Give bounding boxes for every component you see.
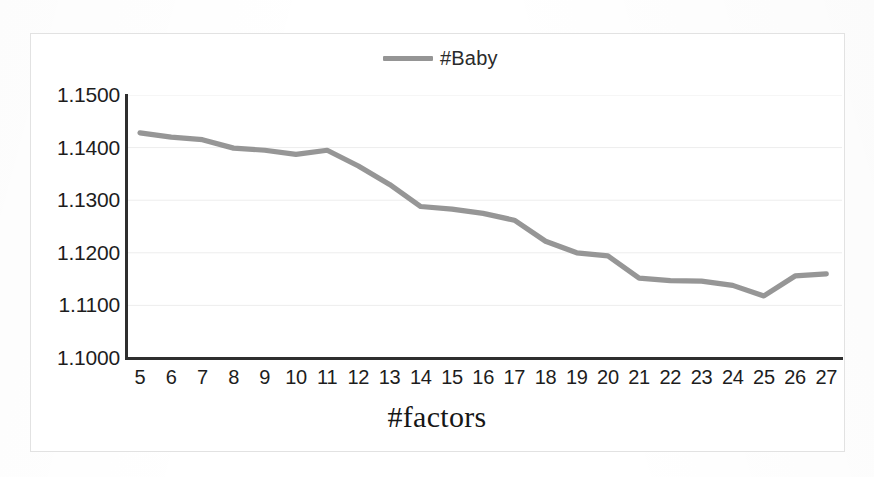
plot-svg xyxy=(127,95,842,358)
data-line-baby xyxy=(140,133,826,296)
x-axis-title: #factors xyxy=(0,400,874,434)
legend-line-swatch-baby xyxy=(383,56,433,61)
y-tick-label: 1.1100 xyxy=(30,293,120,317)
plot-area xyxy=(127,95,842,358)
data-series-group xyxy=(140,133,826,296)
x-tick-label: 27 xyxy=(808,366,844,389)
y-tick-label: 1.1500 xyxy=(30,83,120,107)
chart-legend: #Baby xyxy=(383,44,498,72)
x-axis-line xyxy=(125,357,843,360)
y-axis-line xyxy=(125,94,128,360)
y-tick-label: 1.1300 xyxy=(30,188,120,212)
y-tick-label: 1.1000 xyxy=(30,346,120,370)
y-tick-label: 1.1200 xyxy=(30,241,120,265)
gridlines xyxy=(127,95,842,358)
chart-figure: #Baby 1.15001.14001.13001.12001.11001.10… xyxy=(0,0,874,477)
legend-label-baby: #Baby xyxy=(440,48,498,68)
y-tick-label: 1.1400 xyxy=(30,136,120,160)
x-axis-tick-labels: 5678910111213141516171819202122232425262… xyxy=(127,366,842,396)
